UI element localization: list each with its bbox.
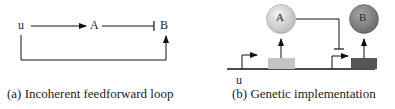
edge-u-to-B [21,35,166,60]
node-A-label: A [90,18,99,33]
node-u-label: u [18,18,24,33]
protein-a-label: A [276,11,284,23]
gene-a [268,58,295,69]
gene-b [351,58,377,69]
panel-b-genetic [227,5,379,70]
promoter-2-icon [332,56,348,69]
caption-b: (b) Genetic implementation [232,86,376,102]
protein-b-label: B [359,11,366,23]
caption-a: (a) Incoherent feedforward loop [7,86,173,102]
repression-A-to-promoter-2 [296,19,339,49]
node-B-label: B [160,18,168,33]
promoter-1-icon [242,55,257,69]
